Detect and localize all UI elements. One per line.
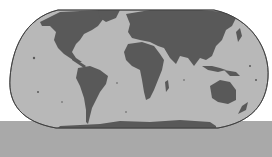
world-map	[0, 0, 272, 157]
